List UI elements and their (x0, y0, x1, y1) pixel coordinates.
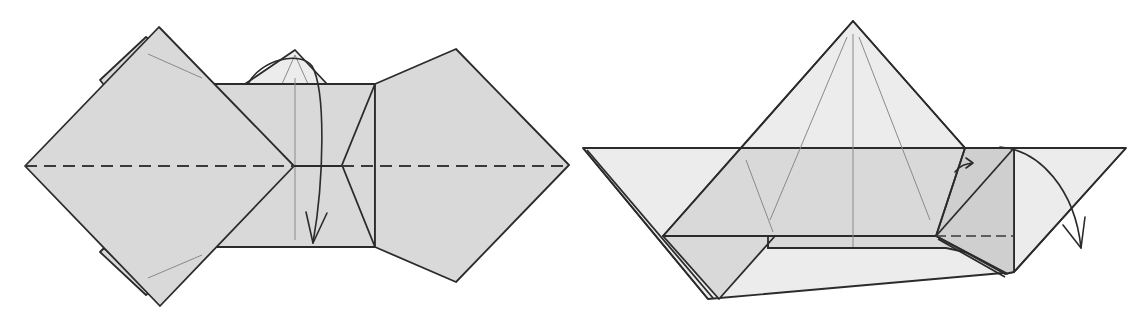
origami-diagram (0, 0, 1144, 319)
top-flap (245, 50, 327, 84)
step-right (583, 21, 1126, 299)
step-left (25, 27, 569, 306)
arrowhead-down-right (1063, 217, 1085, 248)
